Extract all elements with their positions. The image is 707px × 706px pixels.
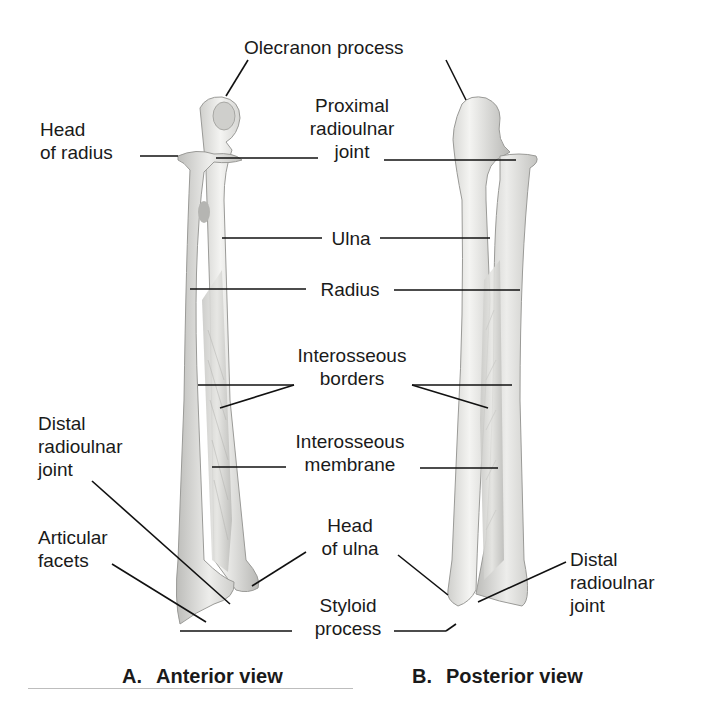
label-head-of-ulna: Head of ulna (306, 514, 394, 560)
caption-posterior-view: B.Posterior view (412, 665, 583, 688)
posterior-view-bones (448, 97, 537, 606)
label-articular-facets: Articular facets (38, 526, 108, 572)
label-proximal-radioulnar-joint: Proximal radioulnar joint (300, 94, 404, 163)
label-head-of-radius: Head of radius (40, 118, 113, 164)
label-radius: Radius (306, 278, 394, 301)
label-styloid-process: Styloid process (298, 594, 398, 640)
label-olecranon-process: Olecranon process (244, 36, 403, 59)
label-interosseous-membrane: Interosseous membrane (280, 430, 420, 476)
bottom-divider (28, 688, 353, 689)
label-interosseous-borders: Interosseous borders (282, 344, 422, 390)
caption-anterior-view: A.Anterior view (122, 665, 283, 688)
label-distal-radioulnar-joint-anterior: Distal radioulnar joint (38, 412, 123, 481)
label-ulna: Ulna (322, 227, 380, 250)
anterior-view-bones (176, 97, 258, 624)
label-distal-radioulnar-joint-posterior: Distal radioulnar joint (570, 548, 655, 617)
